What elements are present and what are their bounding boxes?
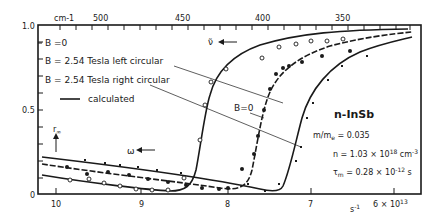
x-top-unit: cm-1 [54, 14, 74, 23]
omega-label: ω [127, 146, 135, 156]
y-axis-label: r∞ [53, 125, 61, 135]
leader-left [174, 66, 283, 103]
chart: 1.0 0.5 0 cm-1 500 450 400 350 10 9 8 7 … [0, 0, 441, 224]
y-tick-0.5: 0.5 [22, 106, 35, 115]
legend-b0: B =0 [45, 38, 68, 48]
material-label: n-InSb [334, 108, 374, 121]
legend: B =0 B = 2.54 Tesla left circular B = 2.… [38, 38, 170, 104]
tau: τm = 0.28 × 10-12 s [333, 166, 412, 178]
x-tick-7: 7 [308, 200, 313, 209]
b0-label: B=0 [234, 103, 254, 113]
legend-right: B = 2.54 Tesla right circular [45, 75, 170, 85]
x-top-tick-500: 500 [93, 14, 108, 23]
markers-left [65, 49, 352, 191]
nu-label: ν̃ [208, 37, 213, 47]
density: n = 1.03 × 1018 cm-3 [333, 148, 418, 159]
leader-right [150, 85, 301, 147]
mass-ratio: m/me = 0.035 [313, 131, 370, 141]
x-tick-6: 6 × 1013 [373, 198, 408, 209]
x-axis-label: s-1 [350, 203, 360, 214]
legend-calculated: calculated [88, 94, 134, 104]
x-tick-10: 10 [51, 200, 61, 209]
omega-arrowhead-icon [136, 147, 142, 153]
y-tick-0: 0 [30, 191, 35, 200]
y-tick-1.0: 1.0 [22, 22, 35, 31]
legend-left: B = 2.54 Tesla left circular [45, 56, 163, 66]
x-top-tick-450: 450 [175, 14, 190, 23]
x-tick-9: 9 [139, 200, 144, 209]
x-top-tick-400: 400 [255, 14, 270, 23]
x-top-tick-350: 350 [335, 14, 350, 23]
nu-arrowhead-icon [218, 39, 224, 45]
x-tick-8: 8 [225, 200, 230, 209]
